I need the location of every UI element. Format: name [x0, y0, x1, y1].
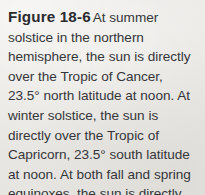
figure-caption-paragraph: Figure 18-6At summer solstice in the nor… — [0, 0, 205, 195]
figure-number-label: Figure 18-6 — [8, 8, 91, 25]
figure-caption-container: Figure 18-6At summer solstice in the nor… — [0, 0, 205, 195]
figure-caption-text: At summer solstice in the northern hemis… — [8, 10, 191, 195]
